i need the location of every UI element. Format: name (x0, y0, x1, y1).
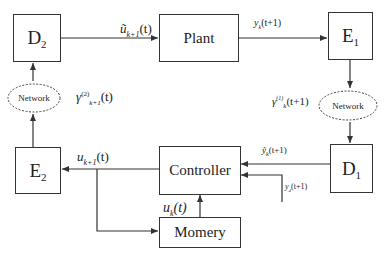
arrow-to-memory (97, 169, 158, 231)
signal-gamma1: γ(1)k(t+1) (272, 95, 309, 107)
e1-subscript: 1 (354, 36, 360, 48)
network-cloud-right: Network (317, 89, 379, 122)
d1-block: D1 (330, 144, 373, 193)
network-left-label: Network (18, 93, 50, 103)
arrow-yd-to-controller (241, 175, 282, 202)
e2-subscript: 2 (41, 171, 47, 183)
signal-u-k1: uk+1(t) (77, 149, 109, 165)
d2-label: D (27, 27, 41, 48)
d1-subscript: 1 (356, 169, 362, 181)
e1-block: E1 (328, 12, 373, 60)
d2-subscript: 2 (41, 38, 47, 50)
signal-u-tilde: ũk+1(t) (120, 21, 152, 37)
e1-label: E (342, 25, 354, 46)
signal-y-tilde: ỹk(t+1) (262, 145, 287, 155)
network-right-label: Network (332, 101, 364, 111)
d2-block: D2 (13, 14, 61, 62)
signal-y-k: yk(t+1) (254, 17, 281, 28)
controller-label: Controller (169, 162, 231, 179)
plant-block: Plant (159, 14, 239, 62)
e2-label: E (29, 160, 41, 181)
signal-gamma2: γ(2)k+1(t) (76, 89, 113, 105)
network-cloud-left: Network (6, 82, 62, 114)
plant-label: Plant (184, 30, 215, 47)
memory-label: Momery (174, 224, 226, 241)
controller-block: Controller (159, 146, 241, 195)
memory-block: Momery (159, 217, 241, 248)
d1-label: D (342, 158, 356, 179)
e2-block: E2 (15, 147, 61, 194)
signal-u-k: uk(t) (163, 200, 187, 216)
signal-y-d: yd(t+1) (285, 182, 307, 191)
